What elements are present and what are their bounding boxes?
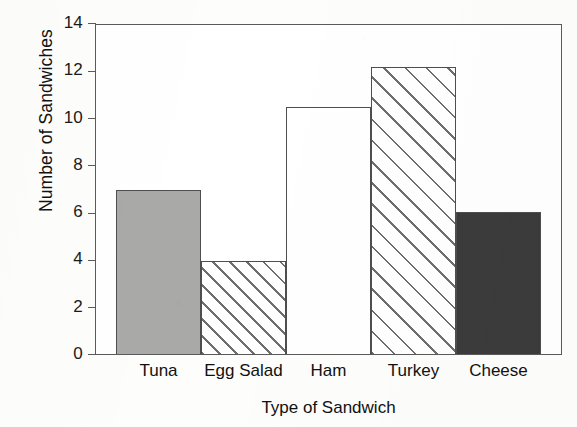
y-axis-tick-label: 2	[37, 297, 83, 317]
bar-series	[96, 25, 561, 354]
x-axis-category-label: Cheese	[456, 361, 541, 381]
x-axis-category-label: Ham	[286, 361, 371, 381]
y-axis-tick-label: 8	[37, 155, 83, 175]
x-axis-title: Type of Sandwich	[95, 398, 562, 418]
bar-ham	[286, 107, 371, 354]
y-axis-tick-label: 10	[37, 108, 83, 128]
y-axis-tick	[88, 71, 96, 72]
y-axis-tick-label: 14	[37, 13, 83, 33]
y-axis-tick-label: 6	[37, 202, 83, 222]
bar-egg-salad	[201, 261, 286, 354]
y-axis-tick	[88, 354, 96, 355]
bar-cheese	[456, 212, 541, 354]
chart-page: Number of Sandwiches 02468101214 TunaEgg…	[0, 0, 577, 427]
x-axis-category-label: Egg Salad	[201, 361, 286, 381]
y-axis-tick	[88, 260, 96, 261]
bar-turkey	[371, 67, 456, 354]
y-axis-tick-label: 12	[37, 60, 83, 80]
y-axis-tick-label: 0	[37, 344, 83, 364]
bar-tuna	[116, 190, 201, 355]
x-axis-category-label: Turkey	[371, 361, 456, 381]
x-axis-title-text: Type of Sandwich	[261, 398, 395, 417]
y-axis-tick	[88, 165, 96, 166]
y-axis-tick	[88, 23, 96, 24]
y-axis-tick	[88, 118, 96, 119]
y-axis-tick-label: 4	[37, 249, 83, 269]
y-axis-tick	[88, 307, 96, 308]
y-axis-tick	[88, 213, 96, 214]
x-axis-category-label: Tuna	[116, 361, 201, 381]
